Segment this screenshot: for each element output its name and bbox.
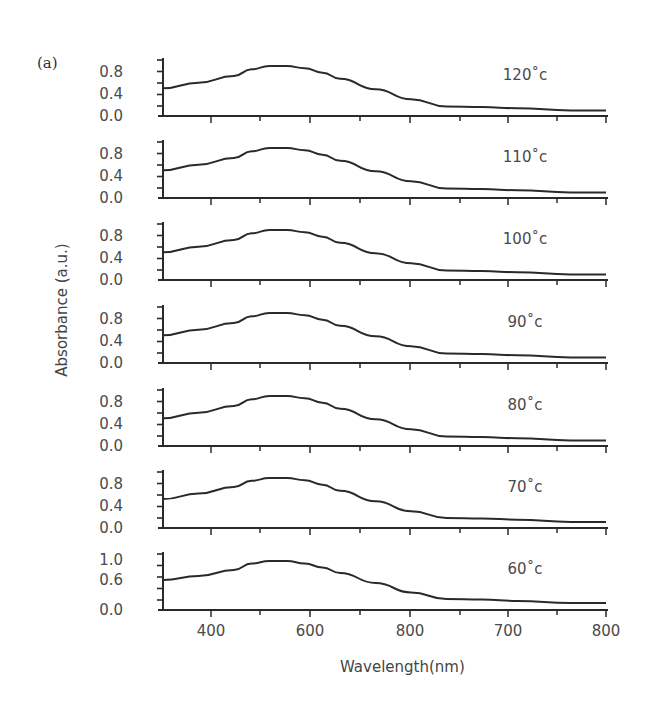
y-tick-label: 0.0 <box>99 354 123 372</box>
panel-120c: 0.00.40.8120˚c <box>99 58 608 125</box>
y-tick-label: 0.8 <box>99 63 123 81</box>
y-tick-label: 0.8 <box>99 227 123 245</box>
y-tick-label: 0.0 <box>99 189 123 207</box>
x-tick-label: 400 <box>197 622 226 640</box>
y-tick-label: 0.8 <box>99 475 123 493</box>
temperature-label: 110˚c <box>503 148 547 166</box>
panel-60c: 0.00.61.060˚c <box>99 551 608 619</box>
x-tick-label: 800 <box>396 622 425 640</box>
temperature-label: 90˚c <box>508 313 543 331</box>
temperature-label: 80˚c <box>508 396 543 414</box>
y-tick-label: 0.0 <box>99 519 123 537</box>
y-tick-label: 0.8 <box>99 393 123 411</box>
y-tick-label: 1.0 <box>99 551 123 569</box>
temperature-label: 100˚c <box>503 230 547 248</box>
y-tick-label: 0.0 <box>99 271 123 289</box>
y-tick-label: 0.0 <box>99 107 123 125</box>
y-tick-label: 0.4 <box>99 497 123 515</box>
y-tick-label: 0.4 <box>99 85 123 103</box>
panel-80c: 0.00.40.880˚c <box>99 388 608 455</box>
y-tick-label: 0.8 <box>99 310 123 328</box>
panel-110c: 0.00.40.8110˚c <box>99 140 608 207</box>
panel-100c: 0.00.40.8100˚c <box>99 222 608 289</box>
temperature-label: 60˚c <box>508 560 543 578</box>
x-tick-label: 600 <box>296 622 325 640</box>
x-tick-label: 800 <box>592 622 621 640</box>
panel-70c: 0.00.40.870˚c <box>99 470 608 537</box>
y-tick-label: 0.0 <box>99 601 123 619</box>
y-tick-label: 0.0 <box>99 437 123 455</box>
y-tick-label: 0.4 <box>99 249 123 267</box>
x-tick-label: 700 <box>494 622 523 640</box>
temperature-label: 70˚c <box>508 478 543 496</box>
spectra-figure: 0.00.40.8120˚c0.00.40.8110˚c0.00.40.8100… <box>0 0 646 716</box>
temperature-label: 120˚c <box>503 66 547 84</box>
y-tick-label: 0.4 <box>99 415 123 433</box>
y-tick-label: 0.8 <box>99 145 123 163</box>
y-tick-label: 0.6 <box>99 571 123 589</box>
y-tick-label: 0.4 <box>99 332 123 350</box>
panel-90c: 0.00.40.890˚c <box>99 305 608 372</box>
y-tick-label: 0.4 <box>99 167 123 185</box>
